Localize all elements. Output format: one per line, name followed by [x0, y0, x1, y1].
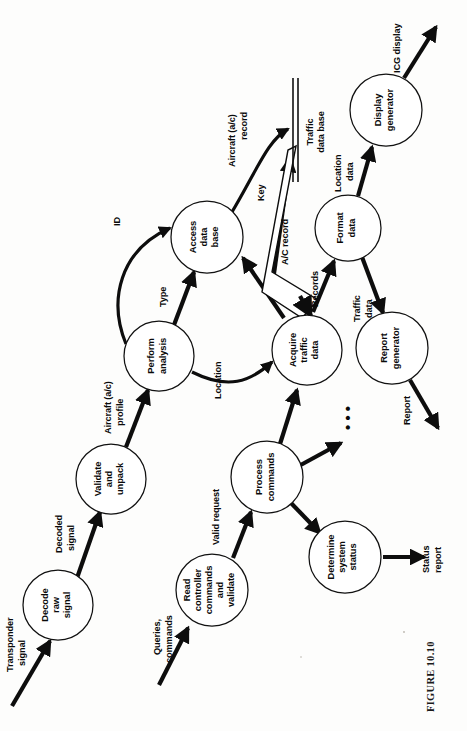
process-label-line-1: Process	[253, 459, 264, 495]
flow-arrow-process-to-acquire	[280, 390, 297, 444]
flow-label-location-data-1: Location	[333, 154, 343, 192]
process-label-line-1: Access	[187, 221, 198, 253]
process-label-line-1: Decode	[39, 588, 50, 621]
process-label-line-1: Report	[378, 333, 389, 363]
flow-label-location: Location	[213, 361, 223, 399]
flow-arrow-to-determine-status	[291, 503, 320, 533]
flow-arrow-decoded-signal	[77, 512, 100, 578]
process-label-line-3: commands	[203, 566, 214, 615]
process-perform-analysis[interactable]: Perform analysis	[124, 321, 194, 391]
flow-arrow-to-ellipsis	[297, 443, 341, 467]
process-label-line-2: and	[103, 470, 114, 487]
figure-caption: FIGURE 10.10	[425, 641, 436, 712]
process-label-line-2: generator	[390, 326, 401, 369]
process-label-line-4: and	[214, 581, 225, 598]
process-label-line-2: data	[198, 227, 209, 247]
flow-label-status-report-2: report	[433, 547, 443, 573]
process-process-commands[interactable]: Process commands	[231, 441, 303, 513]
flow-label-decoded-signal-2: signal	[66, 525, 76, 551]
process-label-line-1: Acquire	[287, 333, 298, 367]
flow-label-queries-commands-2: commands	[164, 615, 174, 663]
flow-arrow-location	[192, 362, 272, 382]
process-label-line-3: signal	[61, 592, 72, 619]
flow-label-aircraft-profile-1: Aircraft (a/c)	[103, 381, 113, 434]
flow-label-traffic-data-1: Traffic	[352, 295, 362, 322]
process-access-data-base[interactable]: Access data base	[171, 201, 243, 273]
process-label-line-1: Read	[181, 578, 192, 601]
process-acquire-traffic-data[interactable]: Acquire traffic data	[272, 315, 342, 385]
process-label-line-2: raw	[50, 596, 61, 613]
process-label-line-2: generator	[384, 88, 395, 131]
scan-speck	[300, 656, 302, 658]
data-flow-diagram-canvas: Traffic data base Decode raw signal Vali…	[0, 0, 467, 731]
process-label-line-3: base	[209, 227, 220, 248]
flow-arrow-aircraft-profile	[126, 390, 148, 447]
process-label-line-2: commands	[265, 453, 276, 502]
flow-label-status-report-1: Status	[421, 546, 431, 573]
process-report-generator[interactable]: Report generator	[356, 312, 428, 384]
flow-label-ac-record: A/C record	[280, 219, 290, 265]
flow-arrow-valid-request	[233, 512, 251, 558]
flow-label-decoded-signal-1: Decoded	[54, 515, 64, 553]
ellipsis-marker: • • •	[339, 406, 356, 430]
flow-label-location-data-2: data	[345, 162, 355, 181]
process-label-line-2: analysis	[157, 338, 168, 374]
process-label-line-2: traffic	[298, 337, 309, 362]
flow-label-records: Records	[310, 271, 320, 307]
process-label-line-3: status	[347, 543, 358, 570]
flow-label-aircraft-record-1: Aircraft (a/c)	[227, 114, 237, 167]
flow-label-key: Key	[256, 183, 266, 201]
process-label-line-3: unpack	[114, 462, 125, 495]
process-label-line-2: data	[346, 218, 357, 238]
flow-arrow-type	[174, 272, 194, 325]
process-label-line-5: validate	[225, 573, 236, 607]
scan-speck	[403, 631, 405, 633]
flow-label-transponder-signal-2: signal	[17, 640, 27, 666]
process-label-line-1: Format	[334, 212, 345, 243]
flow-label-transponder-signal-1: Transponder	[5, 617, 15, 672]
process-label-line-2: system	[336, 541, 347, 573]
process-read-controller-commands[interactable]: Read controller commands and validate	[176, 554, 248, 626]
flow-arrow-icg-display	[404, 27, 436, 78]
process-validate-and-unpack[interactable]: Validate and unpack	[76, 444, 146, 514]
flow-label-type: Type	[158, 287, 168, 307]
flow-label-aircraft-profile-2: profile	[115, 399, 125, 426]
flow-label-traffic-data-2: data	[364, 299, 374, 318]
flow-label-id: ID	[112, 217, 122, 226]
flow-arrow-location-data	[358, 147, 372, 196]
process-label-line-1: Display	[372, 93, 383, 127]
process-label-line-1: Determine	[325, 535, 336, 580]
flow-label-valid-request: Valid request	[211, 489, 221, 545]
process-determine-system-status[interactable]: Determine system status	[309, 521, 381, 593]
flow-label-report: Report	[402, 396, 412, 425]
flow-label-icg-display: ICG display	[392, 23, 402, 73]
process-label-line-1: Validate	[92, 462, 103, 497]
process-label-line-2: controller	[192, 568, 203, 611]
flow-label-queries-commands-1: Queries,	[152, 619, 162, 655]
data-store-label-line-2: data base	[316, 111, 326, 153]
process-decode-raw-signal[interactable]: Decode raw signal	[23, 570, 93, 640]
flow-arrow-report	[410, 380, 438, 428]
process-format-data[interactable]: Format data	[315, 195, 381, 261]
flow-label-aircraft-record-2: record	[239, 112, 249, 140]
process-label-line-1: Perform	[145, 338, 156, 373]
data-store-label-line-1: Traffic	[305, 119, 315, 146]
data-store-traffic-data-base: Traffic data base	[293, 78, 326, 182]
process-label-line-3: data	[309, 340, 320, 360]
figure-page: Traffic data base Decode raw signal Vali…	[0, 0, 467, 731]
process-display-generator[interactable]: Display generator	[350, 74, 422, 146]
